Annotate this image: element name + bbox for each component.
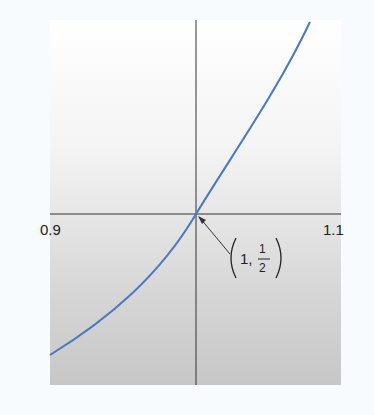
left-paren [231,238,236,278]
annotation-arrow [200,218,230,254]
annotation-x: 1, [240,250,253,267]
tick-label-right: 1.1 [323,221,344,238]
curve-line [50,22,310,355]
tick-label-left: 0.9 [40,221,61,238]
right-paren [276,238,281,278]
arrow-head-icon [198,216,206,224]
annotation-denominator: 2 [259,261,266,275]
chart-svg [0,0,374,415]
annotation-numerator: 1 [259,242,266,256]
